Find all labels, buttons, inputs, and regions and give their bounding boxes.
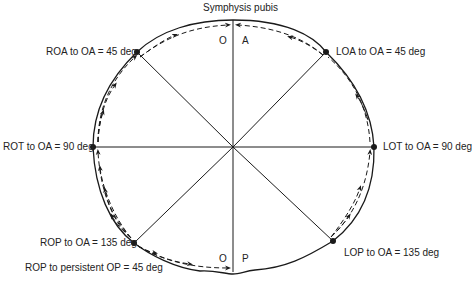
label-lop: LOP to OA = 135 deg <box>344 247 439 259</box>
letter-o-bottom: O <box>219 253 227 265</box>
title-symphysis-pubis: Symphysis pubis <box>203 2 278 14</box>
label-rot: ROT to OA = 90 deg <box>3 141 94 153</box>
loa-dot <box>323 49 329 55</box>
label-rop: ROP to OA = 135 deg <box>40 237 137 249</box>
lop-dot <box>330 238 336 244</box>
letter-p-bottom: P <box>242 253 249 265</box>
label-rop-persistent-op: ROP to persistent OP = 45 deg <box>25 262 163 274</box>
letter-a-top: A <box>242 35 249 47</box>
letter-o-top: O <box>219 35 227 47</box>
label-roa: ROA to OA = 45 deg <box>46 46 137 58</box>
label-lot: LOT to OA = 90 deg <box>383 141 472 153</box>
label-loa: LOA to OA = 45 deg <box>336 46 425 58</box>
lot-dot <box>371 144 377 150</box>
